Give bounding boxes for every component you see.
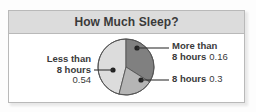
pie-label-more-line2-text: 8 hours (172, 51, 206, 62)
pie-label-eight-line1: 8 hours0.3 (172, 74, 223, 85)
page-title: How Much Sleep? (74, 15, 178, 29)
chart-title-bar: How Much Sleep? (9, 11, 244, 34)
pie-label-more-than-8-hours: More than 8 hours0.16 (172, 41, 228, 62)
pie-label-eight-line1-text: 8 hours (172, 73, 206, 84)
pie-label-less-line1: Less than (13, 54, 91, 65)
pie-label-8-hours: 8 hours0.3 (172, 74, 223, 85)
pie-label-less-than-8-hours: Less than 8 hours 0.54 (13, 54, 91, 86)
chart-panel: How Much Sleep? (8, 10, 245, 103)
pie-label-more-line2: 8 hours0.16 (172, 52, 228, 63)
pie-label-more-value: 0.16 (209, 51, 228, 62)
scanned-page-background: How Much Sleep? (0, 0, 256, 112)
pie-label-less-value: 0.54 (13, 75, 91, 86)
pie-chart-plot-area: Less than 8 hours 0.54 More than 8 hours… (9, 34, 244, 103)
pie-label-eight-value: 0.3 (209, 73, 222, 84)
